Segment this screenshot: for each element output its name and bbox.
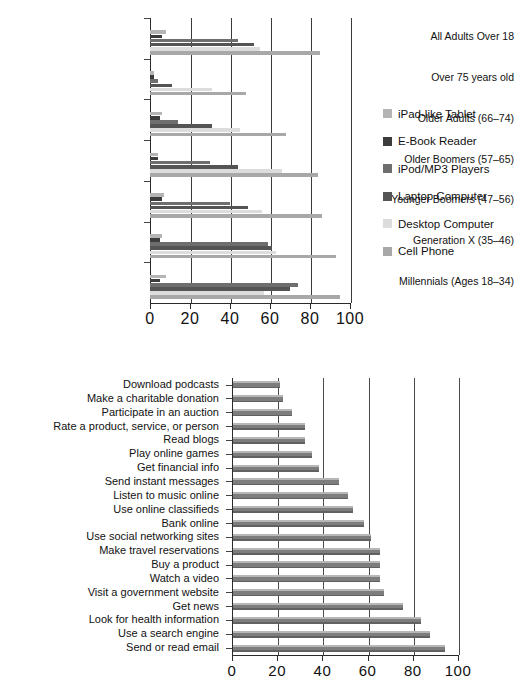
chart2-row: Make travel reservations xyxy=(0,544,520,558)
chart2-bar xyxy=(233,520,364,527)
chart2-row: Download podcasts xyxy=(0,378,520,392)
chart2-row: Watch a video xyxy=(0,572,520,586)
chart2-y-tick xyxy=(226,578,232,579)
chart2-bar-highlight xyxy=(233,575,380,577)
chart1-bar xyxy=(150,197,162,201)
chart1-legend-label: iPod/MP3 Players xyxy=(398,163,489,175)
chart2-bar-highlight xyxy=(233,631,430,633)
chart2-bar-highlight xyxy=(233,492,348,494)
chart2-bar-shadow xyxy=(233,401,283,403)
legend-swatch-icon xyxy=(383,137,392,146)
chart2-y-tick xyxy=(226,481,232,482)
chart2-row: Bank online xyxy=(0,517,520,531)
chart2-y-tick xyxy=(226,412,232,413)
chart2-row: Get financial info xyxy=(0,461,520,475)
chart1-legend-item[interactable]: Laptop Computer xyxy=(383,183,520,211)
chart1-category-label: All Adults Over 18 xyxy=(374,30,520,42)
chart1-bar xyxy=(150,202,230,206)
chart2-bar-highlight xyxy=(233,395,283,397)
chart2-bar-shadow xyxy=(233,484,339,486)
chart2-bar xyxy=(233,465,319,472)
chart2-bar-highlight xyxy=(233,381,280,383)
chart2-x-tick xyxy=(322,655,323,661)
chart1-bar-group xyxy=(150,18,350,59)
chart1-bar xyxy=(150,246,272,250)
chart2-bar xyxy=(233,381,280,388)
chart2-bar-shadow xyxy=(233,650,445,652)
chart2-row: Send instant messages xyxy=(0,475,520,489)
chart1-bar xyxy=(150,124,212,128)
chart2-x-tick-label: 60 xyxy=(348,662,388,679)
chart2-bar-highlight xyxy=(233,589,384,591)
chart2-bar xyxy=(233,437,305,444)
chart1-legend-item[interactable]: iPod/MP3 Players xyxy=(383,155,520,183)
chart2-bar xyxy=(233,451,312,458)
chart2-y-tick xyxy=(226,634,232,635)
chart2-category-label: Buy a product xyxy=(0,558,226,572)
chart1-x-tick-label: 80 xyxy=(290,310,330,328)
chart1-bar xyxy=(150,255,336,259)
chart2-x-tick xyxy=(458,655,459,661)
chart2-category-label: Participate in an auction xyxy=(0,406,226,420)
chart1-bar xyxy=(150,79,158,83)
chart2-y-tick xyxy=(226,565,232,566)
chart2-bar-highlight xyxy=(233,548,380,550)
chart2-bar-highlight xyxy=(233,451,312,453)
chart1-category-label: Millennials (Ages 18–34) xyxy=(374,275,520,287)
chart1-bar xyxy=(150,173,318,177)
chart2-category-label: Get news xyxy=(0,600,226,614)
chart2-bar-shadow xyxy=(233,511,353,513)
chart1-bar xyxy=(150,112,162,116)
chart2-row: Look for health information xyxy=(0,613,520,627)
chart2-x-tick-label: 40 xyxy=(302,662,342,679)
chart1-bar xyxy=(150,279,160,283)
chart1-legend-item[interactable]: iPad-like Tablet xyxy=(383,100,520,128)
chart2-y-tick xyxy=(226,426,232,427)
chart2-category-label: Listen to music online xyxy=(0,489,226,503)
chart2-row: Use social networking sites xyxy=(0,530,520,544)
chart1-legend-item[interactable]: E-Book Reader xyxy=(383,128,520,156)
chart1-bar xyxy=(150,206,248,210)
chart2-bar xyxy=(233,395,283,402)
chart1-x-tick xyxy=(350,303,351,309)
chart1-bar xyxy=(150,47,260,51)
chart2-row: Make a charitable donation xyxy=(0,392,520,406)
chart1-bar-group xyxy=(150,99,350,140)
device-ownership-chart: 020406080100 All Adults Over 18Over 75 y… xyxy=(0,0,520,350)
chart2-bar xyxy=(233,548,380,555)
chart1-bar xyxy=(150,75,154,79)
chart2-bar-highlight xyxy=(233,506,353,508)
chart1-bar xyxy=(150,51,320,55)
chart2-bar-highlight xyxy=(233,409,292,411)
chart1-bar-group xyxy=(150,262,350,303)
chart2-x-tick xyxy=(232,655,233,661)
chart1-bar xyxy=(150,71,154,75)
chart2-bar-highlight xyxy=(233,465,319,467)
chart1-bar xyxy=(150,238,160,242)
chart1-bar xyxy=(150,116,160,120)
chart2-row: Listen to music online xyxy=(0,489,520,503)
chart1-bar xyxy=(150,234,162,238)
chart2-x-tick-label: 20 xyxy=(257,662,297,679)
chart2-category-label: Make a charitable donation xyxy=(0,392,226,406)
chart2-category-label: Download podcasts xyxy=(0,378,226,392)
chart2-bar xyxy=(233,409,292,416)
chart2-bar-highlight xyxy=(233,437,305,439)
chart1-bar xyxy=(150,283,298,287)
chart2-bar-shadow xyxy=(233,525,364,527)
chart2-row: Send or read email xyxy=(0,641,520,655)
chart2-bar-shadow xyxy=(233,498,348,500)
legend-swatch-icon xyxy=(383,219,392,228)
chart1-bar-group xyxy=(150,140,350,181)
chart2-bar-shadow xyxy=(233,539,371,541)
chart1-legend-label: E-Book Reader xyxy=(398,135,477,147)
chart1-x-tick xyxy=(190,303,191,309)
chart1-legend-item[interactable]: Cell Phone xyxy=(383,238,520,266)
chart1-bar xyxy=(150,295,340,299)
chart2-row: Use online classifieds xyxy=(0,503,520,517)
chart2-bar-highlight xyxy=(233,645,445,647)
chart1-legend-item[interactable]: Desktop Computer xyxy=(383,210,520,238)
chart1-bar xyxy=(150,193,164,197)
chart1-bar-group xyxy=(150,59,350,100)
chart2-category-label: Play online games xyxy=(0,447,226,461)
